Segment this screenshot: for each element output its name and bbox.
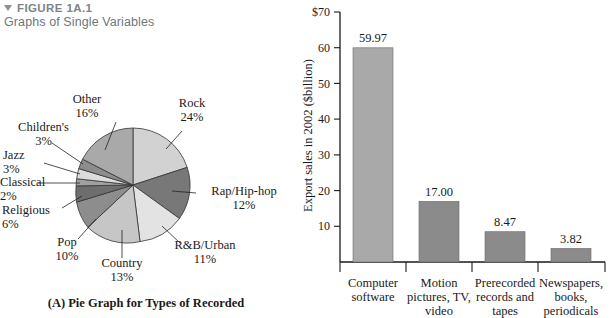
pie-label-jazz: Jazz 3%	[3, 149, 25, 176]
bar-value-label-prerecorded-records: 8.47	[475, 215, 535, 230]
x-category-label-prerecorded-records: Prerecorded records and tapes	[467, 276, 543, 318]
pie-label-other: Other 16%	[52, 93, 122, 120]
y-tick-label-60: 60	[296, 41, 330, 56]
y-tick-label-40: 40	[296, 112, 330, 127]
x-axis-category-separators	[340, 262, 605, 272]
pie-label-rap-hip-hop-name: Rap/Hip-hop	[211, 184, 276, 198]
x-category-line-2: software	[335, 290, 411, 304]
pie-label-childrens-name: Children's	[18, 120, 69, 134]
pie-label-rock: Rock 24%	[168, 97, 216, 124]
bar-chart-graphic	[292, 0, 610, 315]
pie-label-rap-hip-hop: Rap/Hip-hop 12%	[198, 185, 290, 212]
pie-label-pop-name: Pop	[57, 235, 76, 249]
pie-label-jazz-name: Jazz	[3, 148, 25, 162]
pie-label-rock-pct: 24%	[168, 111, 216, 125]
pie-label-other-pct: 16%	[52, 107, 122, 121]
x-category-line-2: pictures, TV,	[401, 290, 477, 304]
y-tick-label-50: 50	[296, 77, 330, 92]
y-tick-label-10: 10	[296, 219, 330, 234]
pie-label-classical-pct: 2%	[0, 190, 45, 204]
pie-label-religious-pct: 6%	[2, 218, 50, 232]
pie-chart-caption: (A) Pie Graph for Types of Recorded	[0, 296, 292, 311]
y-tick-label-70: $70	[296, 5, 330, 20]
x-category-line-2: records and	[467, 290, 543, 304]
x-category-label-motion-pictures: Motion pictures, TV, video	[401, 276, 477, 318]
bar-value-label-newspapers-books: 3.82	[541, 232, 601, 247]
bar-chart-panel: Export sales in 2002 ($billion)	[292, 0, 610, 315]
pie-label-pop: Pop 10%	[46, 236, 88, 263]
x-category-line-1: Newspapers,	[533, 276, 609, 290]
pie-label-pop-pct: 10%	[46, 250, 88, 264]
bar-value-label-motion-pictures: 17.00	[409, 185, 469, 200]
bar-newspapers-books-periodicals	[551, 248, 591, 262]
pie-label-other-name: Other	[73, 92, 101, 106]
y-axis-ticks	[334, 12, 340, 226]
pie-label-rnb-urban: R&B/Urban 11%	[162, 239, 248, 266]
pie-label-religious-name: Religious	[2, 203, 50, 217]
pie-slices	[76, 128, 190, 243]
pie-chart-graphic	[0, 0, 292, 296]
pie-label-rnb-urban-pct: 11%	[162, 253, 248, 267]
pie-label-rap-hip-hop-pct: 12%	[198, 199, 290, 213]
pie-label-rock-name: Rock	[179, 96, 205, 110]
leader-line-jazz	[44, 163, 80, 174]
x-category-line-2: books,	[533, 290, 609, 304]
bar-value-label-computer-software: 59.97	[343, 31, 403, 46]
x-category-label-newspapers-books: Newspapers, books, periodicals	[533, 276, 609, 318]
bar-computer-software	[353, 48, 393, 262]
x-category-label-computer-software: Computer software	[335, 276, 411, 304]
pie-label-religious: Religious 6%	[2, 204, 50, 231]
x-category-line-1: Prerecorded	[467, 276, 543, 290]
pie-label-rnb-urban-name: R&B/Urban	[174, 238, 235, 252]
pie-label-country-pct: 13%	[90, 271, 154, 285]
bar-prerecorded-records-and-tapes	[485, 232, 525, 262]
y-tick-label-20: 20	[296, 184, 330, 199]
x-category-line-3: video	[401, 304, 477, 318]
pie-label-country-name: Country	[102, 256, 143, 270]
pie-label-childrens-pct: 3%	[6, 135, 81, 149]
pie-label-country: Country 13%	[90, 257, 154, 284]
x-category-line-1: Motion	[401, 276, 477, 290]
pie-label-classical: Classical 2%	[0, 176, 45, 203]
pie-chart-panel: Other 16% Children's 3% Jazz 3% Classica…	[0, 0, 292, 315]
pie-label-jazz-pct: 3%	[3, 163, 25, 177]
x-category-line-3: tapes	[467, 304, 543, 318]
x-category-line-1: Computer	[335, 276, 411, 290]
y-tick-label-30: 30	[296, 148, 330, 163]
bars	[353, 48, 591, 262]
pie-label-childrens: Children's 3%	[6, 121, 81, 148]
x-category-line-3: periodicals	[533, 304, 609, 318]
pie-label-classical-name: Classical	[0, 175, 45, 189]
bar-motion-pictures-tv-video	[419, 201, 459, 262]
